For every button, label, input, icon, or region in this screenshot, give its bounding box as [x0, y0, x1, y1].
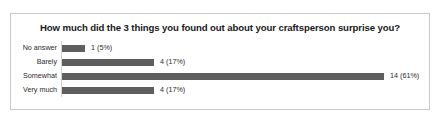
bar-row: Somewhat 14 (61%) [11, 69, 431, 83]
bar-no-answer [62, 45, 85, 52]
category-label-barely: Barely [11, 55, 57, 69]
chart-title: How much did the 3 things you found out … [11, 22, 429, 33]
bar-value-somewhat: 14 (61%) [390, 69, 419, 83]
category-label-no-answer: No answer [11, 41, 57, 55]
category-label-somewhat: Somewhat [11, 69, 57, 83]
bar-very-much [62, 87, 154, 94]
plot-area: No answer 1 (5%) Barely 4 (17%) Somewhat… [11, 41, 431, 101]
bar-value-no-answer: 1 (5%) [91, 41, 112, 55]
bar-row: Barely 4 (17%) [11, 55, 431, 69]
bar-row: Very much 4 (17%) [11, 83, 431, 97]
category-label-very-much: Very much [11, 83, 57, 97]
bar-value-barely: 4 (17%) [160, 55, 185, 69]
bar-row: No answer 1 (5%) [11, 41, 431, 55]
bar-value-very-much: 4 (17%) [160, 83, 185, 97]
bar-barely [62, 59, 154, 66]
bar-somewhat [62, 73, 384, 80]
chart-frame: How much did the 3 things you found out … [10, 13, 430, 110]
